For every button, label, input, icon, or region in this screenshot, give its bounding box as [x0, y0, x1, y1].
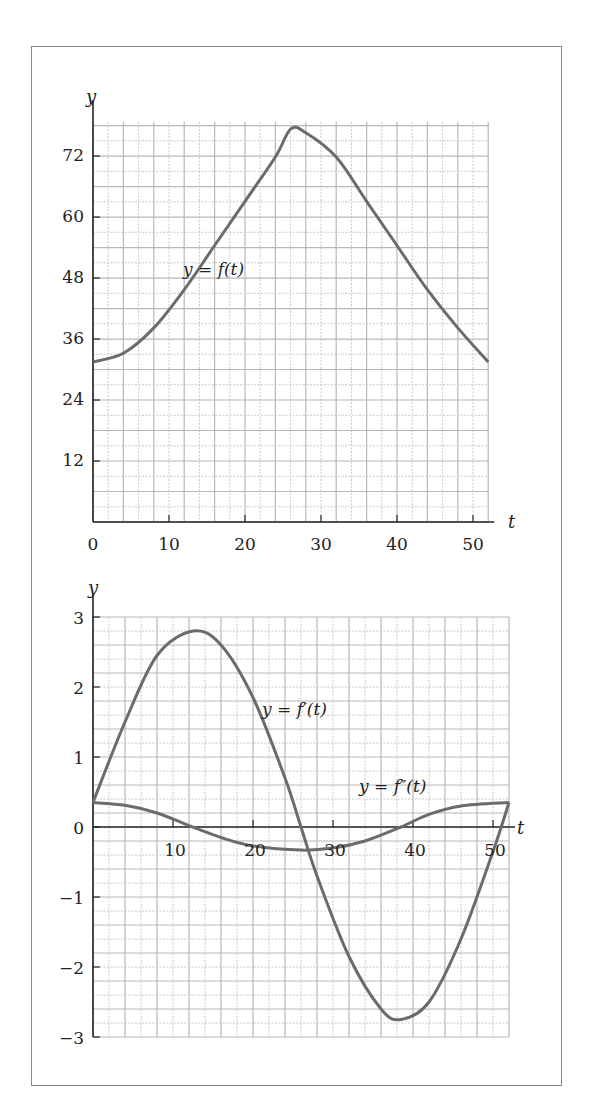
curve-label-f-double-prime: y = f″(t) [358, 776, 426, 796]
y-tick-label: 60 [62, 206, 84, 226]
x-tick-label: 0 [88, 534, 99, 554]
x-tick-label: 20 [234, 534, 256, 554]
top-chart-grid [93, 122, 488, 522]
x-tick-label: 10 [164, 840, 186, 860]
top-x-axis-label: t [508, 511, 516, 532]
y-tick-label: 0 [73, 818, 84, 838]
top-y-axis-label: y [85, 86, 97, 107]
bottom-chart-derivatives: y t y = f′(t) y = f″(t) 10 20 30 40 50 3… [59, 577, 525, 1048]
bottom-x-axis-label: t [517, 817, 525, 838]
top-x-tick-labels: 0 10 20 30 40 50 [88, 534, 484, 554]
bottom-y-axis-label: y [87, 577, 99, 598]
bottom-x-tick-labels: 10 20 30 40 50 [164, 840, 506, 860]
y-tick-label: 12 [62, 450, 84, 470]
y-tick-label: −3 [59, 1028, 84, 1048]
y-tick-label: 24 [62, 389, 84, 409]
figure-canvas: y t y = f(t) 0 10 20 30 40 50 12 24 36 4… [0, 0, 592, 1113]
bottom-chart-axes [93, 595, 515, 1037]
x-tick-label: 20 [244, 840, 266, 860]
y-tick-label: 3 [73, 608, 84, 628]
top-chart-axes [93, 100, 494, 522]
x-tick-label: 50 [462, 534, 484, 554]
y-tick-label: 72 [62, 145, 84, 165]
x-tick-label: 10 [158, 534, 180, 554]
y-tick-label: 1 [73, 748, 84, 768]
x-tick-label: 50 [484, 840, 506, 860]
y-tick-label: −1 [59, 888, 84, 908]
top-y-tick-labels: 12 24 36 48 60 72 [62, 145, 84, 470]
y-tick-label: 48 [62, 267, 84, 287]
y-tick-label: 2 [73, 678, 84, 698]
y-tick-label: −2 [59, 958, 84, 978]
y-tick-label: 36 [62, 328, 84, 348]
x-tick-label: 30 [324, 840, 346, 860]
x-tick-label: 40 [386, 534, 408, 554]
bottom-y-tick-labels: 3 2 1 0 −1 −2 −3 [59, 608, 84, 1048]
x-tick-label: 30 [310, 534, 332, 554]
curve-label-f: y = f(t) [182, 259, 244, 279]
curve-label-f-prime: y = f′(t) [261, 699, 327, 719]
top-chart-f: y t y = f(t) 0 10 20 30 40 50 12 24 36 4… [62, 86, 516, 554]
x-tick-label: 40 [404, 840, 426, 860]
